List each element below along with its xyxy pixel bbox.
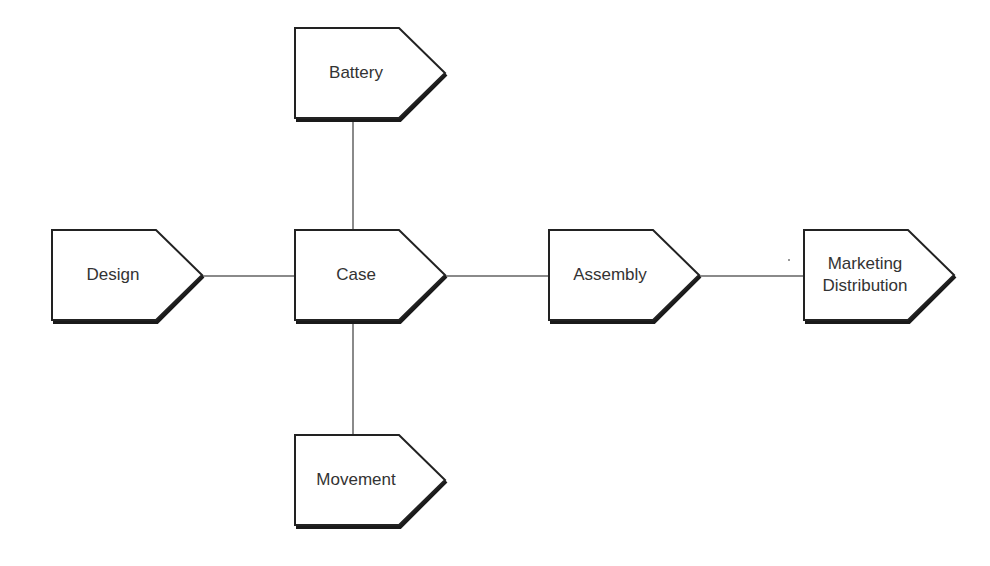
node-assembly xyxy=(549,230,699,320)
node-battery xyxy=(295,28,445,118)
node-design xyxy=(52,230,202,320)
node-movement xyxy=(295,435,445,525)
node-marketing xyxy=(804,230,954,320)
diagram-canvas xyxy=(0,0,990,566)
stray-dot xyxy=(788,259,790,261)
node-case xyxy=(295,230,445,320)
